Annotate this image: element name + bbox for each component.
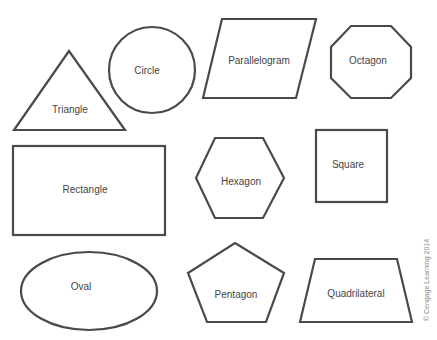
parallelogram-label: Parallelogram [228,55,290,66]
pentagon-label: Pentagon [215,289,258,300]
triangle-label: Triangle [52,104,88,115]
rectangle-label: Rectangle [62,184,107,195]
square-label: Square [332,159,365,170]
pentagon-outline [188,243,284,322]
square-shape: Square [316,130,387,202]
rectangle-shape: Rectangle [13,146,165,235]
pentagon-shape: Pentagon [188,243,284,322]
triangle-shape: Triangle [14,51,125,130]
shapes-diagram: Triangle Circle Parallelogram Octagon Re… [0,0,437,340]
copyright-credit: © Cengage Learning 2014 [423,239,431,321]
hexagon-label: Hexagon [221,176,261,187]
circle-label: Circle [134,65,160,76]
circle-shape: Circle [109,27,195,113]
oval-shape: Oval [21,252,157,330]
quadrilateral-shape: Quadrilateral [300,259,412,322]
triangle-outline [14,51,125,130]
octagon-shape: Octagon [331,26,411,98]
octagon-label: Octagon [349,55,387,66]
parallelogram-shape: Parallelogram [203,19,316,98]
quadrilateral-label: Quadrilateral [327,288,384,299]
hexagon-shape: Hexagon [196,138,284,218]
oval-label: Oval [71,281,92,292]
